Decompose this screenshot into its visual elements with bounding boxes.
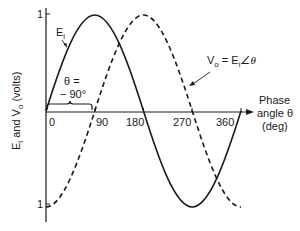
y-axis-title: Ei and Vo (volts) (10, 72, 25, 150)
brace-icon (47, 101, 92, 110)
ei-annotation: Ei (56, 26, 67, 48)
phase-shift-chart: 1 1 0 90 180 270 360 Ei Vo = Ei∠θ θ = − … (0, 0, 300, 231)
theta-brace: θ = − 90° (47, 75, 92, 110)
x-tick-label-360: 360 (216, 116, 234, 128)
vo-arrow-icon (189, 81, 195, 86)
theta-label-line2: − 90° (60, 88, 86, 100)
ei-label: Ei (56, 26, 65, 41)
x-axis-title-line2: angle θ (257, 107, 293, 119)
y-tick-label-top: 1 (37, 8, 43, 20)
vo-annotation: Vo = Ei∠θ (189, 54, 256, 86)
x-axis-title-line1: Phase (259, 94, 290, 106)
theta-label-line1: θ = (64, 75, 80, 87)
x-tick-label-180: 180 (126, 116, 144, 128)
x-tick-label-0: 0 (49, 116, 55, 128)
vo-pointer (193, 72, 210, 84)
y-tick-label-bottom: 1 (37, 198, 43, 210)
x-tick-label-90: 90 (96, 116, 108, 128)
ei-curve (46, 15, 241, 207)
x-axis-arrow-icon (246, 109, 254, 115)
x-tick-label-270: 270 (173, 116, 191, 128)
x-axis-title-line3: (deg) (262, 120, 288, 132)
vo-label: Vo = Ei∠θ (207, 54, 256, 69)
